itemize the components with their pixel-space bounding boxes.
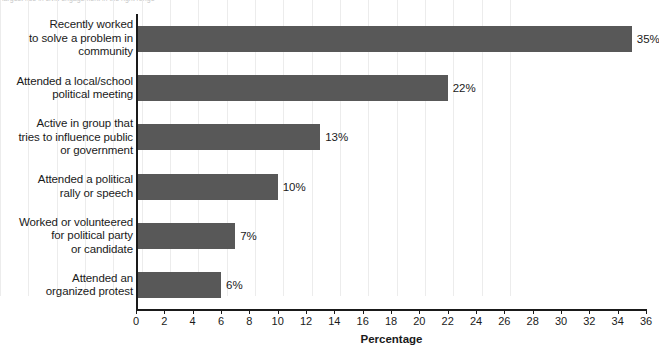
tick-mark-2 xyxy=(164,310,165,314)
x-tick-label: 14 xyxy=(328,315,340,327)
category-label: Attended anorganized protest xyxy=(0,272,133,299)
bar-row: 6% xyxy=(136,272,646,298)
tick-mark-6 xyxy=(221,310,222,314)
category-label-line: Attended a political xyxy=(0,173,133,187)
tick-mark-10 xyxy=(278,310,279,314)
tick-mark-16 xyxy=(363,310,364,314)
tick-mark-24 xyxy=(476,310,477,314)
tick-mark-4 xyxy=(193,310,194,314)
x-tick-label: 0 xyxy=(133,315,139,327)
bar-row: 10% xyxy=(136,174,646,200)
y-axis-line xyxy=(136,14,138,310)
category-label-line: rally or speech xyxy=(0,187,133,201)
tick-mark-36 xyxy=(646,310,647,314)
category-label: Recently workedto solve a problem incomm… xyxy=(0,18,133,59)
tick-mark-0 xyxy=(136,310,137,314)
x-tick-label: 6 xyxy=(218,315,224,327)
tick-mark-14 xyxy=(334,310,335,314)
x-tick-label: 2 xyxy=(161,315,167,327)
bar-value-label: 6% xyxy=(221,279,243,291)
bar-row: 7% xyxy=(136,223,646,249)
bar-value-label: 35% xyxy=(632,33,659,45)
x-tick-label: 10 xyxy=(272,315,284,327)
tick-mark-34 xyxy=(618,310,619,314)
bars-container: 35%22%13%10%7%6% xyxy=(136,14,646,310)
tick-mark-20 xyxy=(419,310,420,314)
x-tick-label: 36 xyxy=(640,315,652,327)
x-tick-label: 32 xyxy=(583,315,595,327)
category-label: Active in group thattries to influence p… xyxy=(0,117,133,158)
category-label-line: community xyxy=(0,45,133,59)
x-tick-label: 4 xyxy=(190,315,196,327)
category-label-line: Attended an xyxy=(0,272,133,286)
x-tick-label: 12 xyxy=(300,315,312,327)
x-tick-label: 8 xyxy=(246,315,252,327)
category-label-line: political meeting xyxy=(0,88,133,102)
category-label-line: for political party xyxy=(0,229,133,243)
tick-mark-8 xyxy=(249,310,250,314)
category-label-line: Recently worked xyxy=(0,18,133,32)
category-label: Worked or volunteeredfor political party… xyxy=(0,216,133,257)
x-tick-label: 30 xyxy=(555,315,567,327)
category-label-line: Active in group that xyxy=(0,117,133,131)
category-label-column: Recently workedto solve a problem incomm… xyxy=(0,14,133,310)
bar xyxy=(136,223,235,249)
bar-row: 22% xyxy=(136,75,646,101)
bar-value-label: 7% xyxy=(235,230,257,242)
x-tick-label: 34 xyxy=(612,315,624,327)
category-label: Attended a local/schoolpolitical meeting xyxy=(0,75,133,102)
tick-mark-18 xyxy=(391,310,392,314)
bar xyxy=(136,26,632,52)
bar-row: 35% xyxy=(136,26,646,52)
bar-value-label: 10% xyxy=(278,181,306,193)
tick-mark-32 xyxy=(589,310,590,314)
tick-mark-28 xyxy=(533,310,534,314)
cropped-source-note: largest rise in civic engagement in the … xyxy=(0,0,659,4)
bar xyxy=(136,272,221,298)
x-tick-label: 20 xyxy=(413,315,425,327)
category-label: Attended a politicalrally or speech xyxy=(0,173,133,200)
tick-mark-26 xyxy=(504,310,505,314)
bar-value-label: 22% xyxy=(448,82,476,94)
tick-mark-22 xyxy=(448,310,449,314)
tick-mark-12 xyxy=(306,310,307,314)
category-label-line: tries to influence public xyxy=(0,131,133,145)
x-tick-label: 24 xyxy=(470,315,482,327)
x-tick-label: 16 xyxy=(357,315,369,327)
bar xyxy=(136,124,320,150)
x-tick-label: 28 xyxy=(527,315,539,327)
x-tick-label: 26 xyxy=(498,315,510,327)
category-label-line: or government xyxy=(0,144,133,158)
category-label-line: organized protest xyxy=(0,285,133,299)
bar-chart-figure: largest rise in civic engagement in the … xyxy=(0,0,659,357)
category-label-line: Worked or volunteered xyxy=(0,216,133,230)
x-tick-label: 22 xyxy=(442,315,454,327)
bar-value-label: 13% xyxy=(320,131,348,143)
bar xyxy=(136,75,448,101)
category-label-line: or candidate xyxy=(0,243,133,257)
category-label-line: Attended a local/school xyxy=(0,75,133,89)
category-label-line: to solve a problem in xyxy=(0,32,133,46)
bar xyxy=(136,174,278,200)
bar-row: 13% xyxy=(136,124,646,150)
x-axis-title: Percentage xyxy=(136,333,647,345)
x-tick-label: 18 xyxy=(385,315,397,327)
tick-mark-30 xyxy=(561,310,562,314)
